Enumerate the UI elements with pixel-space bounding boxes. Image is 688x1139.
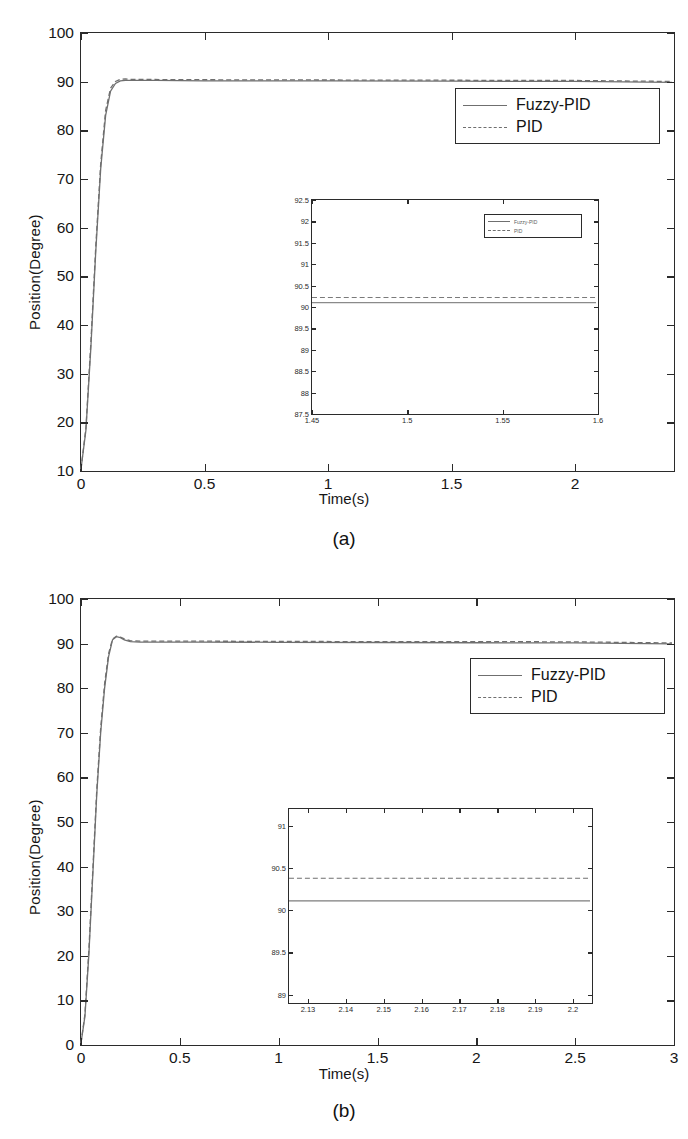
x-tick-top bbox=[384, 809, 385, 813]
y-tick-label: 50 bbox=[57, 813, 74, 831]
y-tick-label: 70 bbox=[57, 170, 74, 188]
y-tick-right bbox=[667, 179, 674, 180]
y-tick-right bbox=[667, 822, 674, 823]
x-tick bbox=[346, 999, 347, 1003]
y-tick-right bbox=[594, 328, 598, 329]
x-tick-label: 2.14 bbox=[339, 1005, 354, 1014]
y-tick-label: 91.5 bbox=[294, 238, 309, 247]
y-tick-right bbox=[667, 422, 674, 423]
x-tick-top bbox=[205, 33, 206, 40]
figure-panel-a: Position(Degree) 10203040506070809010000… bbox=[0, 0, 688, 570]
inset-legend-line-dashed-icon bbox=[488, 230, 510, 231]
x-tick bbox=[312, 410, 313, 414]
y-tick bbox=[81, 1000, 88, 1001]
x-tick-top bbox=[378, 599, 379, 606]
y-tick bbox=[81, 1045, 88, 1046]
x-tick bbox=[503, 410, 504, 414]
legend-entry-fuzzy-pid: Fuzzy-PID bbox=[478, 664, 655, 686]
x-tick-label: 2.2 bbox=[568, 1005, 578, 1014]
y-tick bbox=[312, 393, 316, 394]
x-tick-top bbox=[180, 599, 181, 606]
panel-b-inset-plot-area: 9190.59089.5892.132.142.152.162.172.182.… bbox=[288, 808, 593, 1004]
x-tick-label: 2.19 bbox=[528, 1005, 543, 1014]
x-tick-top bbox=[459, 809, 460, 813]
y-tick bbox=[289, 952, 293, 953]
y-tick-right bbox=[594, 307, 598, 308]
legend-line-solid-icon bbox=[478, 675, 522, 676]
x-tick-top bbox=[497, 809, 498, 813]
x-tick-top bbox=[308, 809, 309, 813]
x-tick-top bbox=[346, 809, 347, 813]
y-tick-right bbox=[667, 644, 674, 645]
y-tick-right bbox=[594, 264, 598, 265]
x-tick-top bbox=[407, 200, 408, 204]
y-tick bbox=[81, 179, 88, 180]
y-tick-label: 20 bbox=[57, 947, 74, 965]
x-tick-label: 1.6 bbox=[593, 416, 603, 425]
y-tick-label: 40 bbox=[57, 858, 74, 876]
y-tick bbox=[81, 911, 88, 912]
y-tick bbox=[81, 228, 88, 229]
y-tick-label: 0 bbox=[65, 1036, 74, 1054]
y-tick bbox=[312, 350, 316, 351]
x-tick bbox=[407, 410, 408, 414]
y-tick-label: 30 bbox=[57, 365, 74, 383]
y-tick bbox=[312, 221, 316, 222]
y-tick-label: 89.5 bbox=[294, 324, 309, 333]
panel-b-y-axis-title: Position(Degree) bbox=[26, 799, 43, 915]
y-tick-right bbox=[588, 910, 592, 911]
y-tick-label: 89 bbox=[278, 990, 286, 999]
legend-label-fuzzy-pid: Fuzzy-PID bbox=[531, 666, 606, 684]
x-tick-label: 2.18 bbox=[490, 1005, 505, 1014]
panel-a-inset-legend: Fuzzy-PID PID bbox=[484, 214, 582, 238]
x-tick-label: 2.13 bbox=[301, 1005, 316, 1014]
inset-legend-label-fuzzy-pid: Fuzzy-PID bbox=[514, 219, 537, 225]
y-tick-label: 80 bbox=[57, 121, 74, 139]
y-tick-label: 40 bbox=[57, 316, 74, 334]
x-tick bbox=[598, 410, 599, 414]
x-tick-label: 1.5 bbox=[402, 416, 412, 425]
y-tick bbox=[81, 956, 88, 957]
y-tick-right bbox=[667, 374, 674, 375]
panel-b-x-axis-title: Time(s) bbox=[0, 1065, 688, 1082]
y-tick-right bbox=[667, 82, 674, 83]
x-tick-top bbox=[573, 809, 574, 813]
y-tick-label: 90.5 bbox=[271, 864, 286, 873]
panel-b-legend: Fuzzy-PID PID bbox=[470, 658, 665, 714]
x-tick-label: 2.16 bbox=[414, 1005, 429, 1014]
x-tick-top bbox=[503, 200, 504, 204]
y-tick bbox=[312, 414, 316, 415]
legend-label-fuzzy-pid: Fuzzy-PID bbox=[516, 96, 591, 114]
y-tick-right bbox=[594, 286, 598, 287]
x-tick bbox=[452, 464, 453, 471]
y-tick-right bbox=[667, 1000, 674, 1001]
y-tick-label: 90.5 bbox=[294, 281, 309, 290]
y-tick-label: 90 bbox=[57, 73, 74, 91]
x-tick-top bbox=[535, 809, 536, 813]
y-tick-right bbox=[667, 33, 674, 34]
legend-entry-fuzzy-pid: Fuzzy-PID bbox=[463, 94, 650, 116]
x-tick-top bbox=[422, 809, 423, 813]
y-tick-label: 92.5 bbox=[294, 196, 309, 205]
y-tick bbox=[81, 471, 88, 472]
y-tick bbox=[81, 644, 88, 645]
y-tick bbox=[81, 325, 88, 326]
legend-entry-pid: PID bbox=[478, 686, 655, 708]
y-tick bbox=[81, 733, 88, 734]
x-tick bbox=[205, 464, 206, 471]
x-tick-top bbox=[279, 599, 280, 606]
panel-a-inset-plot-area: Fuzzy-PID PID 92.59291.59190.59089.58988… bbox=[311, 199, 599, 415]
y-tick-right bbox=[667, 777, 674, 778]
y-tick-label: 80 bbox=[57, 679, 74, 697]
y-tick-right bbox=[594, 414, 598, 415]
y-tick-right bbox=[667, 688, 674, 689]
y-tick-label: 89.5 bbox=[271, 948, 286, 957]
y-tick-label: 20 bbox=[57, 413, 74, 431]
y-tick-label: 88.5 bbox=[294, 367, 309, 376]
legend-line-solid-icon bbox=[463, 105, 507, 106]
x-tick-top bbox=[81, 33, 82, 40]
y-tick bbox=[81, 422, 88, 423]
panel-b-caption: (b) bbox=[0, 1100, 688, 1122]
x-tick-top bbox=[81, 599, 82, 606]
y-tick-label: 30 bbox=[57, 902, 74, 920]
